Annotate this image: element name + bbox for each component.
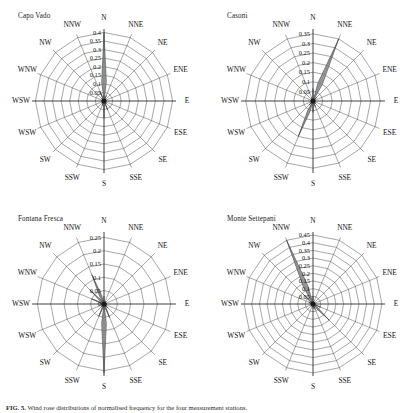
radial-tick-label: 0.35 <box>90 37 101 44</box>
radial-tick-label: 0.3 <box>93 46 101 53</box>
wind-rose-figure: Capo Vado NNNENEENEEESESESSESSSWSWWSWWSW… <box>0 0 417 413</box>
direction-label-w: WSW <box>12 299 30 308</box>
wind-rose-panel-fontana-fresca: Fontana Fresca NNNENEENEEESESESSESSSWSWW… <box>0 203 208 403</box>
radial-tick-label: 0.1 <box>93 274 101 281</box>
direction-label-ese: ESE <box>174 128 188 137</box>
direction-label-se: SE <box>367 155 376 164</box>
figure-caption-label: FIG. 5. <box>6 404 26 411</box>
direction-label-wsw: WSW <box>227 128 245 137</box>
wind-rose-panel-capo-vado: Capo Vado NNNENEENEEESESESSESSSWSWWSWWSW… <box>0 0 208 200</box>
radial-tick-label: 0.4 <box>302 239 311 246</box>
radial-tick-label: 0.15 <box>299 68 310 75</box>
direction-label-sw: SW <box>249 155 260 164</box>
radial-tick-label: 0.45 <box>299 231 310 238</box>
direction-label-sse: SSE <box>129 173 142 182</box>
direction-label-ssw: SSW <box>65 173 80 182</box>
direction-label-e: E <box>394 299 399 308</box>
direction-label-nnw: NNW <box>63 223 81 232</box>
direction-label-ene: ENE <box>382 65 397 74</box>
direction-label-nne: NNE <box>337 20 353 29</box>
direction-label-nw: NW <box>248 38 260 47</box>
direction-label-ne: NE <box>367 38 377 47</box>
direction-label-ese: ESE <box>383 331 397 340</box>
panel-title-fontana-fresca: Fontana Fresca <box>18 215 63 223</box>
panel-title-capo-vado: Capo Vado <box>18 12 51 20</box>
direction-label-sw: SW <box>249 358 260 367</box>
direction-label-ssw: SSW <box>65 376 80 385</box>
direction-label-ne: NE <box>158 38 168 47</box>
direction-label-wnw: WNW <box>18 268 37 277</box>
radial-tick-label: 0.25 <box>90 54 101 61</box>
wind-rose-petal-s <box>102 304 107 373</box>
direction-label-nw: NW <box>39 38 51 47</box>
direction-label-se: SE <box>367 358 376 367</box>
radial-tick-label: 0.2 <box>302 270 310 277</box>
wind-rose-petal-n <box>102 32 107 101</box>
figure-caption: FIG. 5. Wind rose distributions of norma… <box>6 404 411 413</box>
direction-label-e: E <box>185 96 190 105</box>
radial-tick-label: 0.05 <box>90 89 101 96</box>
direction-label-e: E <box>394 96 399 105</box>
direction-label-wsw: WSW <box>227 331 245 340</box>
direction-label-nne: NNE <box>128 223 144 232</box>
direction-label-ese: ESE <box>383 128 397 137</box>
radial-tick-label: 0.15 <box>90 260 101 267</box>
direction-label-n: N <box>101 13 107 22</box>
direction-label-nnw: NNW <box>272 20 290 29</box>
wind-rose-panel-casoni: Casoni NNNENEENEEESESESSESSSWSWWSWWSWWNW… <box>209 0 417 200</box>
panel-title-casoni: Casoni <box>227 12 248 20</box>
direction-label-nne: NNE <box>337 223 353 232</box>
panel-title-monte-settepani: Monte Settepani <box>227 215 276 223</box>
direction-label-sw: SW <box>40 358 51 367</box>
direction-label-sse: SSE <box>338 173 351 182</box>
direction-label-wnw: WNW <box>18 65 37 74</box>
direction-label-wnw: WNW <box>227 65 246 74</box>
radial-tick-label: 0 <box>98 300 101 307</box>
direction-label-nnw: NNW <box>63 20 81 29</box>
wind-rose-plot-fontana-fresca: NNNENEENEEESESESSESSSWSWWSWWSWWNWNWNNW0.… <box>0 203 208 403</box>
radial-tick-label: 0.05 <box>299 293 310 300</box>
wind-rose-petal-se <box>313 304 329 320</box>
radial-tick-label: 0.1 <box>93 80 101 87</box>
direction-label-nnw: NNW <box>272 223 290 232</box>
direction-label-wnw: WNW <box>227 268 246 277</box>
direction-label-nne: NNE <box>128 20 144 29</box>
direction-label-ene: ENE <box>173 65 188 74</box>
radial-tick-label: 0.25 <box>299 262 310 269</box>
direction-label-w: WSW <box>221 299 239 308</box>
radial-tick-label: 0.05 <box>299 88 310 95</box>
direction-label-ne: NE <box>158 241 168 250</box>
direction-label-nw: NW <box>39 241 51 250</box>
radial-tick-label: 0.4 <box>93 29 102 36</box>
radial-tick-label: 0.35 <box>299 30 310 37</box>
wind-rose-petal-nne <box>313 39 339 101</box>
direction-label-n: N <box>101 216 107 225</box>
figure-caption-text: Wind rose distributions of normalised fr… <box>28 404 248 411</box>
direction-label-s: S <box>311 382 315 391</box>
direction-label-ene: ENE <box>382 268 397 277</box>
wind-rose-plot-monte-settepani: NNNENEENEEESESESSESSSWSWWSWWSWWNWNWNNW0.… <box>209 203 417 403</box>
direction-label-ne: NE <box>367 241 377 250</box>
wind-rose-plot-capo-vado: NNNENEENEEESESESSESSSWSWWSWWSWWNWNWNNW0.… <box>0 0 208 200</box>
direction-label-s: S <box>311 179 315 188</box>
radial-tick-label: 0.05 <box>90 287 101 294</box>
radial-tick-label: 0.15 <box>299 277 310 284</box>
radial-tick-label: 0.2 <box>93 63 101 70</box>
direction-label-sw: SW <box>40 155 51 164</box>
direction-label-ssw: SSW <box>274 376 289 385</box>
direction-label-w: WSW <box>12 96 30 105</box>
radial-tick-label: 0.1 <box>302 78 310 85</box>
direction-label-ssw: SSW <box>274 173 289 182</box>
direction-label-sse: SSE <box>129 376 142 385</box>
direction-label-s: S <box>102 179 106 188</box>
radial-tick-label: 0.3 <box>302 254 310 261</box>
wind-rose-plot-casoni: NNNENEENEEESESESSESSSWSWWSWWSWWNWNWNNW0.… <box>209 0 417 200</box>
direction-label-n: N <box>310 13 316 22</box>
radial-tick-label: 0.25 <box>299 49 310 56</box>
direction-label-se: SE <box>158 358 167 367</box>
radial-tick-label: 0.35 <box>299 247 310 254</box>
direction-label-e: E <box>185 299 190 308</box>
wind-rose-panel-monte-settepani: Monte Settepani NNNENEENEEESESESSESSSWSW… <box>209 203 417 403</box>
direction-label-n: N <box>310 216 316 225</box>
direction-label-nw: NW <box>248 241 260 250</box>
